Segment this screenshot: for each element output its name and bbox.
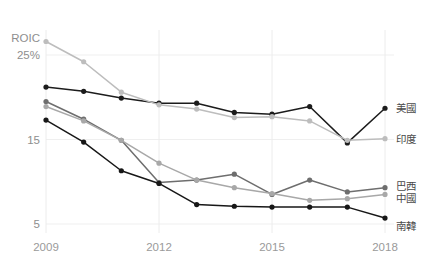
data-point bbox=[43, 39, 48, 44]
series-line bbox=[46, 107, 385, 201]
data-point bbox=[43, 117, 48, 122]
data-point bbox=[119, 90, 124, 95]
vertical-gridlines bbox=[46, 30, 385, 233]
data-point bbox=[156, 181, 161, 186]
data-point bbox=[307, 198, 312, 203]
y-tick-label-15: 15 bbox=[27, 134, 40, 146]
data-point bbox=[382, 136, 387, 141]
y-axis-caption: ROIC bbox=[11, 32, 40, 44]
data-point bbox=[345, 189, 350, 194]
chart-page: ROIC25%155 2009201220152018 美國印度巴西中國南韓 bbox=[0, 0, 424, 257]
data-point bbox=[119, 95, 124, 100]
series-group bbox=[43, 39, 387, 221]
legend-label-3: 中國 bbox=[396, 192, 416, 204]
data-point bbox=[232, 110, 237, 115]
data-point bbox=[81, 139, 86, 144]
data-point bbox=[194, 202, 199, 207]
legend-label-1: 印度 bbox=[396, 133, 417, 145]
data-point bbox=[307, 118, 312, 123]
data-point bbox=[81, 89, 86, 94]
legend-label-2: 巴西 bbox=[396, 180, 416, 192]
data-point bbox=[194, 177, 199, 182]
data-point bbox=[307, 205, 312, 210]
data-point bbox=[269, 191, 274, 196]
y-tick-label-5: 5 bbox=[34, 218, 40, 230]
data-point bbox=[232, 185, 237, 190]
data-point bbox=[307, 104, 312, 109]
series-0 bbox=[43, 85, 387, 146]
legend-label-4: 南韓 bbox=[396, 220, 416, 232]
data-point bbox=[81, 59, 86, 64]
line-chart: ROIC25%155 2009201220152018 美國印度巴西中國南韓 bbox=[0, 0, 424, 257]
data-point bbox=[269, 205, 274, 210]
data-point bbox=[232, 204, 237, 209]
data-point bbox=[345, 205, 350, 210]
data-point bbox=[345, 196, 350, 201]
data-point bbox=[194, 101, 199, 106]
data-point bbox=[232, 172, 237, 177]
data-point bbox=[194, 106, 199, 111]
chart-legend: 美國印度巴西中國南韓 bbox=[396, 102, 417, 232]
data-point bbox=[43, 99, 48, 104]
x-axis-labels: 2009201220152018 bbox=[33, 241, 398, 253]
data-point bbox=[382, 185, 387, 190]
x-tick-label-2012: 2012 bbox=[146, 241, 172, 253]
data-point bbox=[81, 118, 86, 123]
x-tick-label-2018: 2018 bbox=[372, 241, 398, 253]
data-point bbox=[269, 114, 274, 119]
x-tick-label-2009: 2009 bbox=[33, 241, 59, 253]
data-point bbox=[382, 215, 387, 220]
data-point bbox=[43, 104, 48, 109]
data-point bbox=[119, 168, 124, 173]
series-line bbox=[46, 120, 385, 218]
series-line bbox=[46, 41, 385, 140]
data-point bbox=[382, 106, 387, 111]
data-point bbox=[156, 102, 161, 107]
y-axis-labels: ROIC25%155 bbox=[11, 32, 40, 230]
data-point bbox=[43, 85, 48, 90]
legend-label-0: 美國 bbox=[396, 102, 416, 114]
data-point bbox=[119, 138, 124, 143]
data-point bbox=[232, 115, 237, 120]
data-point bbox=[156, 161, 161, 166]
series-line bbox=[46, 101, 385, 194]
data-point bbox=[307, 177, 312, 182]
series-line bbox=[46, 87, 385, 143]
y-tick-label-25: 25% bbox=[17, 49, 40, 61]
x-tick-label-2015: 2015 bbox=[259, 241, 285, 253]
data-point bbox=[345, 138, 350, 143]
data-point bbox=[382, 192, 387, 197]
